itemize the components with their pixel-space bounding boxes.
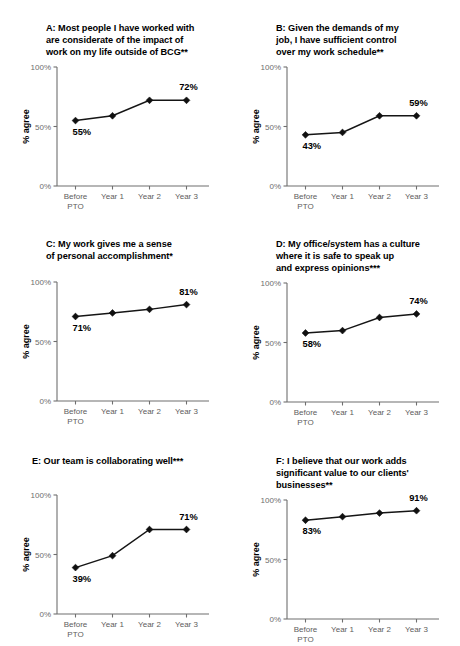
data-point-marker	[72, 117, 79, 124]
panel-C-plot: 0%50%100%BeforePTOYear 1Year 2Year 3% ag…	[0, 274, 230, 429]
data-point-marker	[376, 112, 383, 119]
panel-B-plot: 0%50%100%BeforePTOYear 1Year 2Year 3% ag…	[230, 59, 460, 214]
panel-D: D: My office/system has a culture where …	[230, 238, 460, 430]
y-tick-label: 50%	[265, 338, 281, 347]
y-axis-title: % agree	[21, 325, 31, 360]
panel-C-svg: 0%50%100%BeforePTOYear 1Year 2Year 3% ag…	[0, 274, 230, 429]
x-tick-label: Year 3	[405, 625, 428, 634]
x-tick-label: Year 2	[138, 192, 161, 201]
data-point-marker	[146, 97, 153, 104]
y-tick-label: 0%	[269, 615, 281, 624]
panel-A-title: A: Most people I have worked with are co…	[0, 22, 230, 59]
panel-F-svg: 0%50%100%BeforePTOYear 1Year 2Year 3% ag…	[230, 492, 460, 646]
data-point-label-last: 91%	[409, 492, 428, 502]
data-point-marker	[339, 129, 346, 136]
series-line	[306, 510, 417, 520]
panel-A-plot: 0%50%100%BeforePTOYear 1Year 2Year 3% ag…	[0, 59, 230, 214]
data-point-marker	[183, 302, 190, 309]
y-tick-label: 50%	[35, 338, 51, 347]
x-tick-label: PTO	[297, 634, 313, 643]
series-line	[76, 530, 187, 568]
data-point-marker	[376, 314, 383, 321]
data-point-label-last: 72%	[179, 82, 198, 92]
x-tick-label: PTO	[67, 630, 83, 639]
x-tick-label: Year 3	[175, 620, 198, 629]
x-tick-label: Year 3	[175, 192, 198, 201]
data-point-marker	[183, 526, 190, 533]
x-tick-label: PTO	[67, 201, 83, 210]
panel-B: B: Given the demands of my job, I have s…	[230, 22, 460, 214]
panel-E-title: E: Our team is collaborating well***	[0, 455, 230, 467]
panel-A-svg: 0%50%100%BeforePTOYear 1Year 2Year 3% ag…	[0, 59, 230, 214]
y-tick-label: 0%	[39, 397, 51, 406]
data-point-label-last: 74%	[409, 296, 428, 306]
data-point-marker	[413, 310, 420, 317]
data-point-label-first: 71%	[73, 323, 92, 333]
y-axis-title: % agree	[21, 109, 31, 144]
x-tick-label: Year 1	[331, 192, 354, 201]
panel-E-plot: 0%50%100%BeforePTOYear 1Year 2Year 3% ag…	[0, 487, 230, 642]
x-tick-label: Before	[294, 192, 318, 201]
data-point-marker	[413, 112, 420, 119]
data-point-marker	[376, 509, 383, 516]
x-tick-label: PTO	[67, 417, 83, 426]
panel-E: E: Our team is collaborating well*** 0%5…	[0, 455, 230, 642]
y-tick-label: 50%	[265, 122, 281, 131]
data-point-label-first: 43%	[303, 140, 322, 150]
x-tick-label: Before	[294, 408, 318, 417]
y-tick-label: 0%	[269, 182, 281, 191]
y-axis-title: % agree	[251, 325, 261, 360]
x-tick-label: Year 2	[368, 408, 391, 417]
data-point-marker	[339, 327, 346, 334]
y-tick-label: 50%	[265, 555, 281, 564]
panel-D-title: D: My office/system has a culture where …	[230, 238, 460, 275]
x-tick-label: Year 1	[101, 192, 124, 201]
x-tick-label: Year 3	[405, 408, 428, 417]
x-tick-label: Year 2	[368, 192, 391, 201]
panel-F-title: F: I believe that our work adds signific…	[230, 455, 460, 492]
data-point-label-last: 71%	[179, 512, 198, 522]
data-point-marker	[339, 513, 346, 520]
series-line	[76, 305, 187, 317]
series-line	[306, 314, 417, 333]
y-tick-label: 0%	[39, 182, 51, 191]
data-point-marker	[302, 329, 309, 336]
y-tick-label: 50%	[35, 551, 51, 560]
x-tick-label: Year 1	[331, 408, 354, 417]
y-tick-label: 100%	[31, 278, 51, 287]
data-point-label-last: 59%	[409, 97, 428, 107]
panel-D-plot: 0%50%100%BeforePTOYear 1Year 2Year 3% ag…	[230, 275, 460, 430]
data-point-label-first: 58%	[303, 339, 322, 349]
y-tick-label: 0%	[39, 610, 51, 619]
y-axis-title: % agree	[251, 542, 261, 577]
x-tick-label: Before	[294, 625, 318, 634]
x-tick-label: Before	[64, 407, 88, 416]
x-tick-label: Year 3	[405, 192, 428, 201]
data-point-marker	[302, 516, 309, 523]
y-axis-title: % agree	[251, 109, 261, 144]
x-tick-label: Before	[64, 620, 88, 629]
x-tick-label: PTO	[297, 417, 313, 426]
x-tick-label: Year 1	[331, 625, 354, 634]
x-tick-label: PTO	[297, 201, 313, 210]
data-point-marker	[72, 314, 79, 321]
y-tick-label: 100%	[31, 63, 51, 72]
y-tick-label: 100%	[261, 63, 281, 72]
panel-A: A: Most people I have worked with are co…	[0, 22, 230, 214]
x-tick-label: Year 3	[175, 407, 198, 416]
x-tick-label: Year 1	[101, 407, 124, 416]
x-tick-label: Year 2	[368, 625, 391, 634]
panel-F-plot: 0%50%100%BeforePTOYear 1Year 2Year 3% ag…	[230, 492, 460, 646]
x-tick-label: Year 2	[138, 407, 161, 416]
x-tick-label: Before	[64, 192, 88, 201]
y-tick-label: 50%	[35, 122, 51, 131]
panel-B-title: B: Given the demands of my job, I have s…	[230, 22, 460, 59]
y-tick-label: 100%	[31, 491, 51, 500]
panel-D-svg: 0%50%100%BeforePTOYear 1Year 2Year 3% ag…	[230, 275, 460, 430]
panel-E-svg: 0%50%100%BeforePTOYear 1Year 2Year 3% ag…	[0, 487, 230, 642]
x-tick-label: Year 2	[138, 620, 161, 629]
y-tick-label: 0%	[269, 398, 281, 407]
x-tick-label: Year 1	[101, 620, 124, 629]
y-tick-label: 100%	[261, 496, 281, 505]
data-point-label-last: 81%	[179, 287, 198, 297]
